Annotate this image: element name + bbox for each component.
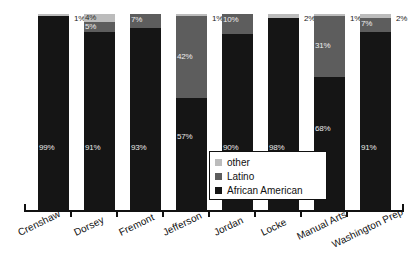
- legend-label-other: other: [227, 157, 250, 168]
- value-label-latino-manual-arts: 31%: [315, 41, 330, 50]
- value-label-other-dorsey: 4%: [85, 13, 96, 22]
- legend-swatch-latino-icon: [215, 173, 222, 180]
- segment-other-dorsey: 4%: [84, 14, 115, 22]
- segment-latino-jefferson: 42%: [176, 16, 207, 98]
- segment-latino-dorsey: 5%: [84, 22, 115, 32]
- legend: other Latino African American: [209, 151, 327, 200]
- legend-label-african-american: African American: [227, 185, 303, 196]
- bar-crenshaw[interactable]: 99%: [38, 14, 69, 210]
- segment-african-american-jefferson: 57%: [176, 98, 207, 210]
- x-axis-tick: [116, 210, 118, 217]
- value-label-african-american-washington-prep: 91%: [361, 143, 376, 152]
- value-label-african-american-crenshaw: 99%: [39, 143, 54, 152]
- value-label-latino-fremont: 7%: [131, 15, 142, 24]
- x-axis-tick: [162, 210, 164, 217]
- bar-dorsey[interactable]: 4% 5% 91%: [84, 14, 115, 210]
- value-label-african-american-manual-arts: 68%: [315, 124, 330, 133]
- legend-swatch-african-american-icon: [215, 187, 222, 194]
- segment-latino-jordan: 10%: [222, 14, 253, 34]
- x-axis-label-crenshaw: Crenshaw: [16, 208, 62, 238]
- value-label-other-washington-prep: 2%: [396, 14, 407, 23]
- legend-swatch-other-icon: [215, 159, 222, 166]
- value-label-latino-jordan: 10%: [223, 15, 238, 24]
- bar-jefferson[interactable]: 42% 57%: [176, 14, 207, 210]
- segment-latino-washington-prep: 7%: [360, 18, 391, 32]
- segment-latino-fremont: 7%: [130, 14, 161, 28]
- value-label-latino-washington-prep: 7%: [361, 19, 372, 28]
- bar-fremont[interactable]: 7% 93%: [130, 14, 161, 210]
- segment-african-american-fremont: 93%: [130, 28, 161, 210]
- x-axis-label-jordan: Jordan: [212, 214, 245, 238]
- x-axis-tick: [254, 210, 256, 217]
- stacked-bar-chart: 99% 1% 4% 5% 91% 7% 93%: [0, 0, 419, 272]
- value-label-latino-jefferson: 42%: [177, 52, 192, 61]
- x-axis-tick: [208, 210, 210, 217]
- value-label-latino-dorsey: 5%: [85, 22, 96, 31]
- legend-item-african-american: African American: [215, 183, 321, 197]
- value-label-african-american-fremont: 93%: [131, 143, 146, 152]
- bar-washington-prep[interactable]: 7% 91%: [360, 14, 391, 210]
- value-label-african-american-jefferson: 57%: [177, 132, 192, 141]
- x-axis-tick: [300, 210, 302, 217]
- x-axis-label-dorsey: Dorsey: [72, 214, 106, 238]
- x-axis-label-jefferson: Jefferson: [161, 210, 203, 238]
- x-axis-label-locke: Locke: [259, 216, 288, 238]
- legend-item-other: other: [215, 155, 321, 169]
- legend-label-latino: Latino: [227, 171, 254, 182]
- segment-african-american-washington-prep: 91%: [360, 32, 391, 210]
- x-axis-tick: [70, 210, 72, 217]
- segment-latino-manual-arts: 31%: [314, 16, 345, 77]
- segment-african-american-dorsey: 91%: [84, 32, 115, 210]
- x-axis-label-fremont: Fremont: [117, 211, 156, 238]
- x-axis-cap-left: [24, 204, 26, 212]
- segment-african-american-crenshaw: 99%: [38, 16, 69, 210]
- legend-item-latino: Latino: [215, 169, 321, 183]
- value-label-african-american-dorsey: 91%: [85, 143, 100, 152]
